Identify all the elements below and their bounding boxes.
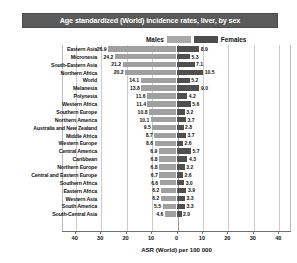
chart-row: Northern Africa20.210.5 bbox=[0, 69, 297, 77]
chart-row: South America5.53.3 bbox=[0, 203, 297, 211]
bar-males bbox=[115, 54, 177, 60]
value-label-males: 6.8 bbox=[151, 156, 158, 162]
value-label-females: 3.9 bbox=[188, 187, 195, 193]
x-tick-label: 20 bbox=[224, 235, 230, 241]
bar-males bbox=[151, 117, 177, 123]
bar-males bbox=[147, 93, 177, 99]
bar-males bbox=[165, 211, 177, 217]
bar-males bbox=[108, 46, 176, 52]
x-tick-mark bbox=[227, 231, 228, 234]
bar-males bbox=[155, 141, 177, 147]
row-bars: 8.73.7 bbox=[62, 132, 291, 140]
chart-row: Central America6.95.7 bbox=[0, 147, 297, 155]
bar-males bbox=[141, 85, 176, 91]
value-label-males: 26.9 bbox=[97, 46, 107, 52]
bar-females bbox=[177, 204, 185, 210]
bar-females bbox=[177, 172, 184, 178]
chart-row: Micronesia24.25.3 bbox=[0, 53, 297, 61]
bar-females bbox=[177, 62, 195, 68]
row-bars: 6.23.9 bbox=[62, 187, 291, 195]
legend-label-males: Males bbox=[146, 36, 164, 43]
row-bars: 11.64.2 bbox=[62, 92, 291, 100]
value-label-females: 3.0 bbox=[186, 180, 193, 186]
x-tick-label: 30 bbox=[97, 235, 103, 241]
bar-males bbox=[161, 196, 177, 202]
page-title: Age standardized (World) incidence rates… bbox=[60, 16, 241, 25]
bar-females bbox=[177, 211, 182, 217]
value-label-females: 3.3 bbox=[186, 203, 193, 209]
value-label-males: 20.2 bbox=[114, 69, 124, 75]
value-label-females: 2.0 bbox=[183, 211, 190, 217]
row-bars: 6.72.6 bbox=[62, 171, 291, 179]
value-label-females: 3.2 bbox=[186, 164, 193, 170]
value-label-females: 5.3 bbox=[191, 54, 198, 60]
chart-page: Age standardized (World) incidence rates… bbox=[0, 0, 297, 263]
bar-females bbox=[177, 133, 186, 139]
value-label-females: 3.2 bbox=[186, 109, 193, 115]
value-label-females: 2.8 bbox=[185, 124, 192, 130]
bar-females bbox=[177, 109, 185, 115]
chart-row: Polynesia11.64.2 bbox=[0, 92, 297, 100]
value-label-females: 9.0 bbox=[201, 85, 208, 91]
x-tick-label: 40 bbox=[275, 235, 281, 241]
bar-females bbox=[177, 54, 190, 60]
bar-males bbox=[159, 156, 176, 162]
value-label-females: 4.2 bbox=[189, 93, 196, 99]
bar-males bbox=[147, 101, 176, 107]
value-label-males: 5.5 bbox=[154, 203, 161, 209]
value-label-females: 7.1 bbox=[196, 61, 203, 67]
bar-males bbox=[159, 148, 177, 154]
value-label-males: 10.1 bbox=[139, 117, 149, 123]
row-bars: 6.95.7 bbox=[62, 147, 291, 155]
value-label-males: 10.8 bbox=[138, 109, 148, 115]
legend-label-females: Females bbox=[221, 36, 247, 43]
value-label-males: 14.1 bbox=[129, 77, 139, 83]
bar-females bbox=[177, 125, 184, 131]
value-label-males: 6.8 bbox=[151, 164, 158, 170]
chart-row: Western Africa11.45.6 bbox=[0, 100, 297, 108]
chart-row: Eastern Africa6.23.9 bbox=[0, 187, 297, 195]
chart-row: Australia and New Zealand9.52.8 bbox=[0, 124, 297, 132]
row-bars: 5.53.3 bbox=[62, 203, 291, 211]
chart-row: Eastern Asia26.98.9 bbox=[0, 45, 297, 53]
bar-females bbox=[177, 156, 188, 162]
bar-females bbox=[177, 70, 204, 76]
value-label-females: 5.2 bbox=[191, 77, 198, 83]
row-bars: 8.62.6 bbox=[62, 140, 291, 148]
value-label-females: 3.3 bbox=[186, 195, 193, 201]
row-bars: 14.15.2 bbox=[62, 77, 291, 85]
value-label-females: 10.5 bbox=[205, 69, 215, 75]
bar-females bbox=[177, 85, 200, 91]
x-tick-label: 10 bbox=[148, 235, 154, 241]
bar-females bbox=[177, 188, 187, 194]
x-tick-mark bbox=[177, 231, 178, 234]
value-label-males: 6.2 bbox=[152, 187, 159, 193]
chart-row: Caribbean6.84.3 bbox=[0, 155, 297, 163]
bar-males bbox=[154, 133, 176, 139]
value-label-males: 6.6 bbox=[151, 180, 158, 186]
value-label-males: 9.5 bbox=[144, 124, 151, 130]
chart-row: Northern America10.13.7 bbox=[0, 116, 297, 124]
row-bars: 6.23.3 bbox=[62, 195, 291, 203]
value-label-males: 8.7 bbox=[146, 132, 153, 138]
bar-females bbox=[177, 148, 192, 154]
value-label-females: 2.6 bbox=[185, 172, 192, 178]
x-tick-label: 10 bbox=[199, 235, 205, 241]
bar-females bbox=[177, 78, 190, 84]
row-bars: 9.52.8 bbox=[62, 124, 291, 132]
chart-rows: Eastern Asia26.98.9Micronesia24.25.3Sout… bbox=[0, 45, 297, 231]
x-tick-label: 20 bbox=[122, 235, 128, 241]
row-bars: 13.89.0 bbox=[62, 84, 291, 92]
value-label-males: 8.6 bbox=[146, 140, 153, 146]
row-bars: 26.98.9 bbox=[62, 45, 291, 53]
row-bars: 10.83.2 bbox=[62, 108, 291, 116]
x-axis-label: ASR (World) per 100 000 bbox=[62, 246, 291, 253]
chart-row: South-Eastern Asia21.27.1 bbox=[0, 61, 297, 69]
value-label-females: 3.7 bbox=[187, 117, 194, 123]
bar-females bbox=[177, 117, 186, 123]
row-bars: 11.45.6 bbox=[62, 100, 291, 108]
bar-males bbox=[163, 204, 177, 210]
bar-males bbox=[123, 62, 177, 68]
bar-males bbox=[125, 70, 176, 76]
bar-males bbox=[161, 188, 177, 194]
